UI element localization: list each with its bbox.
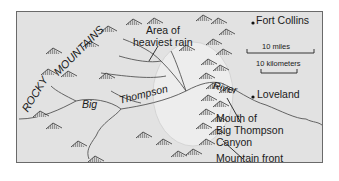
fort-collins-dot (251, 21, 254, 24)
city-fort-collins: Fort Collins (256, 15, 309, 26)
rain-area-label-1: Area of (146, 25, 180, 36)
canyon-label-1: Mouth of (216, 113, 257, 124)
rain-area-label-2: heaviest rain (133, 37, 193, 48)
river-label-big: Big (82, 99, 97, 110)
loveland-dot (251, 95, 254, 98)
city-loveland: Loveland (257, 89, 300, 100)
canyon-label-2: Big Thompson (216, 125, 284, 136)
scale-miles-label: 10 miles (262, 41, 290, 52)
canyon-label-3: Canyon (216, 137, 252, 148)
mountain-front-label: Mountain front (216, 153, 283, 164)
scale-km-label: 10 kilometers (256, 58, 301, 69)
